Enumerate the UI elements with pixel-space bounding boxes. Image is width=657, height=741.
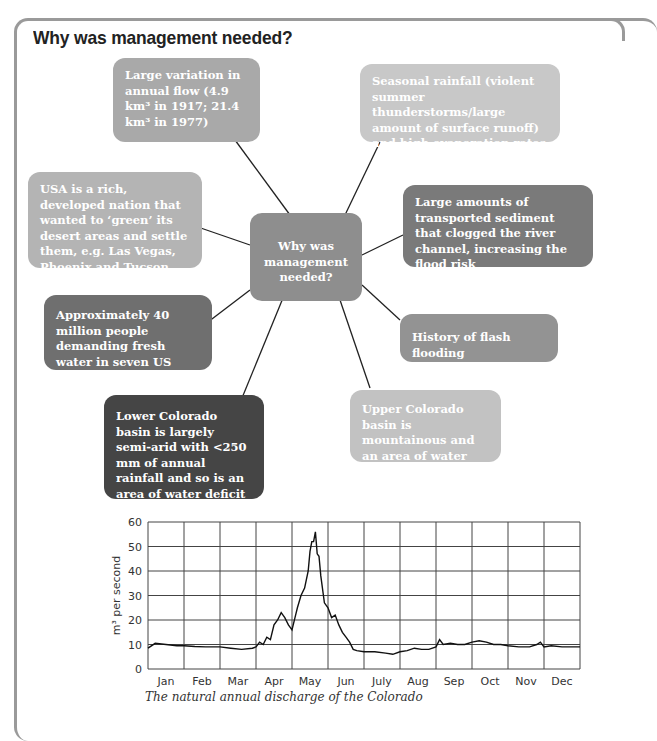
x-tick-label: Aug [407,675,428,688]
cause-box-population: Approximately 40 million people demandin… [44,295,212,370]
y-tick-label: 40 [128,565,142,578]
x-tick-label: Apr [264,675,284,688]
x-tick-label: Jun [336,675,354,688]
discharge-chart: 0102030405060JanFebMarAprMayJunJulyAugSe… [0,500,622,700]
y-tick-label: 0 [135,663,142,676]
x-tick-label: May [299,675,322,688]
cause-box-annual-flow: Large variation in annual flow (4.9 km³ … [113,58,260,142]
center-topic-label: Why was management needed? [262,239,350,286]
cause-box-upper-basin: Upper Colorado basin is mountainous and … [350,390,501,462]
cause-box-sediment: Large amounts of transported sediment th… [403,185,593,267]
x-tick-label: Jan [157,675,175,688]
cause-box-flash-flooding: History of flash flooding [400,314,558,362]
cause-box-lower-basin: Lower Colorado basin is largely semi-ari… [104,395,264,499]
x-tick-label: Sep [444,675,465,688]
center-topic-box: Why was management needed? [250,213,362,301]
x-tick-label: Mar [228,675,249,688]
x-tick-label: July [371,675,392,688]
y-tick-label: 20 [128,614,142,627]
x-tick-label: Feb [192,675,211,688]
y-tick-label: 60 [128,516,142,529]
x-tick-label: Nov [515,675,537,688]
x-tick-label: Dec [551,675,572,688]
y-tick-label: 50 [128,541,142,554]
y-tick-label: 10 [128,639,142,652]
x-tick-label: Oct [480,675,500,688]
y-tick-label: 30 [128,590,142,603]
cause-box-seasonal-rainfall: Seasonal rainfall (violent summer thunde… [360,64,560,142]
cause-box-rich-nation: USA is a rich, developed nation that wan… [28,172,202,268]
chart-caption: The natural annual discharge of the Colo… [145,690,423,704]
y-axis-label: m³ per second [110,556,123,636]
